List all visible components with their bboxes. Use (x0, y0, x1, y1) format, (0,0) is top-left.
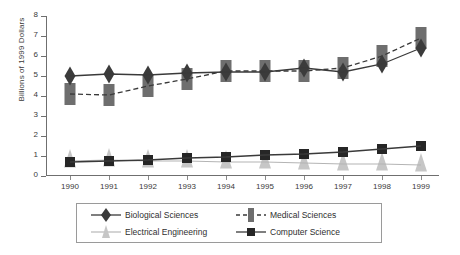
x-tick-label: 1999 (412, 182, 430, 191)
x-tick-label: 1996 (295, 182, 313, 191)
bar-marker (236, 208, 266, 222)
y-tick-label: 3 (34, 110, 38, 119)
diamond-marker (91, 208, 121, 222)
x-tick (70, 176, 71, 180)
x-tick-label: 1997 (334, 182, 352, 191)
triangle-marker (376, 152, 388, 171)
x-tick (421, 176, 422, 180)
x-tick (148, 176, 149, 180)
y-tick-label: 0 (34, 170, 38, 179)
series-computer-science (65, 141, 426, 167)
y-tick-label: 6 (34, 50, 38, 59)
x-tick-label: 1995 (256, 182, 274, 191)
y-tick-label: 7 (34, 30, 38, 39)
x-tick (382, 176, 383, 180)
square-marker (247, 228, 255, 236)
diamond-marker (101, 208, 111, 222)
x-tick-label: 1993 (178, 182, 196, 191)
square-marker (236, 225, 266, 239)
chart-legend: Biological SciencesMedical SciencesElect… (76, 203, 382, 243)
legend-item-biological-sciences[interactable]: Biological Sciences (91, 206, 236, 223)
y-tick-label: 5 (34, 70, 38, 79)
legend-label: Electrical Engineering (125, 227, 207, 237)
y-axis-title: Billions of 1999 Dollars (17, 0, 26, 125)
series-line (70, 146, 421, 162)
x-tick-label: 1994 (217, 182, 235, 191)
x-tick (265, 176, 266, 180)
legend-label: Medical Sciences (270, 210, 336, 220)
triangle-marker (91, 225, 121, 239)
x-tick (304, 176, 305, 180)
legend-item-computer-science[interactable]: Computer Science (236, 223, 381, 240)
y-tick-label: 2 (34, 130, 38, 139)
series-electrical-engineering (64, 148, 427, 172)
legend-item-medical-sciences[interactable]: Medical Sciences (236, 206, 381, 223)
series-plot (46, 16, 439, 176)
y-tick-label: 4 (34, 90, 38, 99)
x-tick (226, 176, 227, 180)
legend-item-electrical-engineering[interactable]: Electrical Engineering (91, 223, 236, 240)
x-tick (109, 176, 110, 180)
y-tick: 0 (41, 176, 46, 177)
x-tick-label: 1991 (100, 182, 118, 191)
x-tick-label: 1990 (61, 182, 79, 191)
legend-label: Biological Sciences (125, 210, 198, 220)
x-tick-label: 1992 (139, 182, 157, 191)
series-line (70, 48, 421, 76)
chart-container: Billions of 1999 Dollars 012345678 19901… (0, 0, 460, 255)
x-tick (187, 176, 188, 180)
series-biological-sciences (65, 39, 427, 86)
y-tick-label: 1 (34, 150, 38, 159)
x-tick-label: 1998 (373, 182, 391, 191)
legend-label: Computer Science (270, 227, 340, 237)
y-tick-label: 8 (34, 10, 38, 19)
x-tick (343, 176, 344, 180)
triangle-marker (415, 153, 427, 172)
bar-marker (248, 208, 254, 222)
plot-area: 012345678 199019911992199319941995199619… (46, 16, 439, 175)
